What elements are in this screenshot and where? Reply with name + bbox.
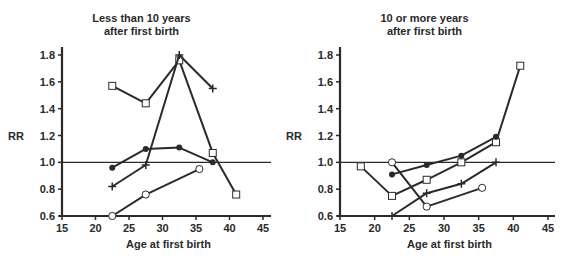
y-tick-label: 1.8 — [40, 49, 55, 61]
x-axis-label: Age at first birth — [407, 238, 492, 250]
y-tick-label: 1.0 — [318, 156, 333, 168]
y-tick-label: 1.4 — [318, 103, 334, 115]
series-line — [361, 66, 520, 196]
x-tick-label: 30 — [156, 222, 168, 234]
open-square-marker — [209, 149, 216, 156]
x-tick-label: 45 — [257, 222, 269, 234]
open-square-marker — [357, 163, 364, 170]
x-tick-label: 15 — [334, 222, 346, 234]
chart-plot: 0.60.81.01.21.41.61.8RR15202530354045Age… — [283, 0, 566, 268]
series-open-square — [357, 62, 523, 199]
filled-circle-marker — [176, 145, 182, 151]
y-tick-label: 1.4 — [40, 103, 56, 115]
filled-circle-marker — [143, 146, 149, 152]
filled-circle-marker — [210, 159, 216, 165]
open-circle-marker — [388, 159, 395, 166]
chart-panel-10-or-more-years: 10 or more years after first birth 0.60.… — [283, 0, 566, 268]
series-open-circle — [388, 159, 485, 210]
open-circle-marker — [196, 165, 203, 172]
open-square-marker — [109, 82, 116, 89]
open-circle-marker — [423, 203, 430, 210]
x-tick-label: 25 — [123, 222, 135, 234]
open-square-marker — [233, 191, 240, 198]
open-square-marker — [517, 62, 524, 69]
series-line — [392, 137, 496, 175]
series-line — [112, 148, 213, 168]
y-tick-label: 1.2 — [40, 130, 55, 142]
y-tick-label: 0.8 — [40, 183, 55, 195]
x-tick-label: 35 — [190, 222, 202, 234]
y-tick-label: 1.2 — [318, 130, 333, 142]
y-tick-label: 1.6 — [318, 76, 333, 88]
x-tick-label: 40 — [223, 222, 235, 234]
series-open-circle — [109, 165, 203, 219]
x-tick-label: 45 — [542, 222, 554, 234]
filled-circle-marker — [493, 134, 499, 140]
series-line — [112, 169, 199, 216]
filled-circle-marker — [109, 165, 115, 171]
series-line — [392, 162, 482, 206]
y-axis-label: RR — [8, 130, 24, 142]
chart-plot: 0.60.81.01.21.41.61.8RR15202530354045Age… — [0, 0, 283, 268]
chart-panel-less-than-10-years: Less than 10 years after first birth 0.6… — [0, 0, 283, 268]
open-circle-marker — [109, 212, 116, 219]
filled-circle-marker — [424, 162, 430, 168]
x-tick-label: 40 — [507, 222, 519, 234]
y-tick-label: 1.0 — [40, 156, 55, 168]
open-circle-marker — [479, 184, 486, 191]
open-circle-marker — [142, 191, 149, 198]
y-axis-label: RR — [286, 130, 302, 142]
x-tick-label: 20 — [369, 222, 381, 234]
y-tick-label: 0.6 — [318, 210, 333, 222]
filled-circle-marker — [389, 171, 395, 177]
y-tick-label: 0.6 — [40, 210, 55, 222]
x-tick-label: 30 — [438, 222, 450, 234]
y-tick-label: 0.8 — [318, 183, 333, 195]
open-square-marker — [423, 176, 430, 183]
x-tick-label: 25 — [403, 222, 415, 234]
x-tick-label: 15 — [56, 222, 68, 234]
y-tick-label: 1.8 — [318, 49, 333, 61]
y-tick-label: 1.6 — [40, 76, 55, 88]
x-axis-label: Age at first birth — [126, 238, 211, 250]
x-tick-label: 20 — [89, 222, 101, 234]
x-tick-label: 35 — [473, 222, 485, 234]
open-square-marker — [458, 159, 465, 166]
filled-circle-marker — [458, 153, 464, 159]
open-square-marker — [142, 100, 149, 107]
open-square-marker — [389, 192, 396, 199]
